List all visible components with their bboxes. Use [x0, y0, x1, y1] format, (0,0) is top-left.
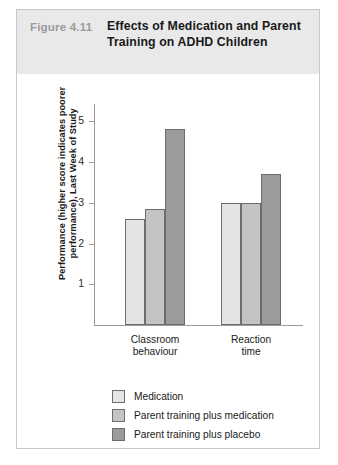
x-axis-category-label: Reaction time [201, 334, 301, 359]
y-axis-tick-label: 2 [78, 237, 84, 249]
bar [261, 174, 281, 325]
figure-title: Effects of Medication and Parent Trainin… [107, 19, 307, 50]
legend-label: Parent training plus medication [134, 410, 274, 421]
x-axis-category-label: Classroom behaviour [105, 334, 205, 359]
y-axis-line [94, 104, 95, 326]
y-axis-tick: 1 [89, 284, 94, 285]
legend-item: Medication [112, 387, 274, 406]
legend-label: Medication [134, 391, 183, 402]
chart-area: Performance (higher score indicates poor… [17, 74, 319, 448]
y-axis-tick: 5 [89, 121, 94, 122]
figure-header: Figure 4.11 Effects of Medication and Pa… [17, 10, 319, 74]
legend-item: Parent training plus placebo [112, 425, 274, 444]
x-axis-line [94, 325, 303, 326]
bar [241, 203, 261, 325]
y-axis-tick-label: 1 [78, 277, 84, 289]
y-axis-tick-label: 4 [78, 155, 84, 167]
y-axis-tick: 2 [89, 244, 94, 245]
bar [221, 203, 241, 325]
bar [125, 219, 145, 325]
bar [145, 209, 165, 325]
bar [165, 129, 185, 325]
y-axis-tick-label: 5 [78, 114, 84, 126]
y-axis-tick: 4 [89, 162, 94, 163]
legend-swatch [112, 409, 125, 422]
legend-swatch [112, 390, 125, 403]
chart-legend: MedicationParent training plus medicatio… [112, 387, 274, 444]
figure-container: Figure 4.11 Effects of Medication and Pa… [16, 9, 320, 449]
legend-label: Parent training plus placebo [134, 429, 260, 440]
plot-area: 12345 [94, 104, 303, 326]
legend-swatch [112, 428, 125, 441]
y-axis-tick-label: 3 [78, 196, 84, 208]
legend-item: Parent training plus medication [112, 406, 274, 425]
y-axis-tick: 3 [89, 203, 94, 204]
y-axis-title: Performance (higher score indicates poor… [57, 73, 80, 293]
figure-number-label: Figure 4.11 [30, 21, 92, 33]
